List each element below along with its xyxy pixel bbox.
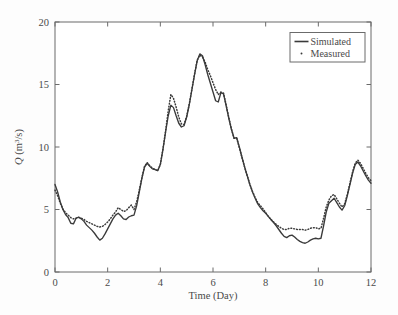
x-tick-label: 0 — [52, 277, 57, 288]
x-tick-label: 10 — [313, 277, 324, 288]
x-tick-label: 6 — [210, 277, 215, 288]
y-axis-title-open: (m — [13, 143, 25, 157]
y-tick-label: 15 — [39, 79, 50, 90]
legend[interactable]: Simulated Measured — [290, 33, 365, 63]
x-tick-label: 4 — [158, 277, 164, 288]
chart-figure: 024681012 05101520 Time (Day) Q (m3/s) S… — [0, 0, 398, 315]
y-axis-title-close: /s) — [13, 129, 25, 140]
y-tick-label: 5 — [44, 204, 49, 215]
x-axis-title: Time (Day) — [189, 290, 238, 302]
y-axis-title-group: Q (m3/s) — [13, 129, 25, 165]
chart-svg: 024681012 05101520 Time (Day) Q (m3/s) S… — [0, 0, 398, 315]
y-tick-label: 10 — [39, 142, 50, 153]
legend-swatch-dot-icon — [301, 53, 303, 55]
y-axis-title: Q (m3/s) — [13, 129, 25, 165]
x-tick-label: 8 — [263, 277, 268, 288]
x-tick-label: 12 — [366, 277, 377, 288]
legend-label-measured: Measured — [311, 48, 350, 59]
x-tick-label: 2 — [105, 277, 110, 288]
y-tick-label: 20 — [39, 17, 50, 28]
legend-label-simulated: Simulated — [311, 36, 352, 47]
y-tick-label: 0 — [44, 267, 49, 278]
